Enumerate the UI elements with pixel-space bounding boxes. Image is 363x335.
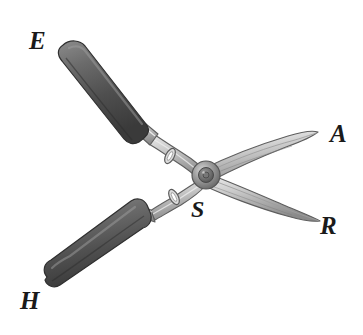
point-label-R: R [320,213,337,238]
shears-illustration [0,0,363,335]
lower-handle [44,199,151,287]
point-label-H: H [20,288,40,313]
point-label-S: S [191,197,205,221]
point-label-A: A [330,121,347,146]
pivot-joint [192,161,220,189]
point-label-E: E [29,28,46,53]
upper-handle [58,41,148,144]
figure-canvas: E A R S H [0,0,363,335]
